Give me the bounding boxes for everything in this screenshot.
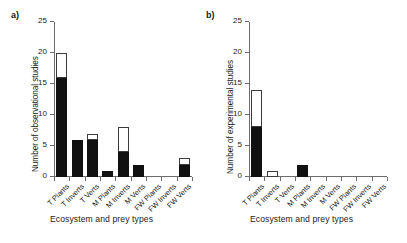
y-tick: 20 <box>245 52 249 53</box>
panel-a: a) Number of observational studies 05101… <box>0 0 203 243</box>
bar <box>56 53 67 177</box>
y-tick-label: 0 <box>43 171 47 180</box>
y-tick-label: 5 <box>43 140 47 149</box>
y-tick-label: 25 <box>233 16 242 25</box>
panel-b-x-axis-title: Ecosystem and prey types <box>200 214 403 224</box>
panel-b-plot-area: 0510152025 T PlantsT InvertsT VertsM Pla… <box>249 22 387 177</box>
panel-b: b) Number of experimental studies 051015… <box>200 0 403 243</box>
bar-segment-light <box>251 90 262 127</box>
y-tick: 5 <box>50 145 54 146</box>
y-tick: 10 <box>50 114 54 115</box>
y-tick-label: 20 <box>233 47 242 56</box>
y-tick: 25 <box>245 21 249 22</box>
y-tick: 25 <box>50 21 54 22</box>
bar <box>251 90 262 177</box>
y-tick-label: 0 <box>238 171 242 180</box>
y-tick-label: 5 <box>238 140 242 149</box>
y-tick: 5 <box>245 145 249 146</box>
y-tick: 15 <box>50 83 54 84</box>
y-tick-label: 20 <box>38 47 47 56</box>
panel-a-y-axis-line <box>54 22 55 177</box>
y-tick: 15 <box>245 83 249 84</box>
bar-segment-light <box>56 53 67 78</box>
panel-a-x-axis-title: Ecosystem and prey types <box>0 214 203 224</box>
bar-segment-dark <box>56 78 67 177</box>
panel-a-label: a) <box>11 10 19 20</box>
panel-b-label: b) <box>206 10 215 20</box>
bar-segment-dark <box>251 127 262 177</box>
y-tick-label: 25 <box>38 16 47 25</box>
y-tick-label: 15 <box>233 78 242 87</box>
y-tick-label: 10 <box>38 109 47 118</box>
y-tick: 10 <box>245 114 249 115</box>
bar-segment-light <box>118 127 129 152</box>
y-tick: 20 <box>50 52 54 53</box>
y-tick-label: 10 <box>233 109 242 118</box>
y-tick-label: 15 <box>38 78 47 87</box>
panel-b-y-axis-line <box>249 22 250 177</box>
panel-a-plot-area: 0510152025 T PlantsT InvertsT VertsM Pla… <box>54 22 192 177</box>
figure-root: a) Number of observational studies 05101… <box>0 0 407 243</box>
